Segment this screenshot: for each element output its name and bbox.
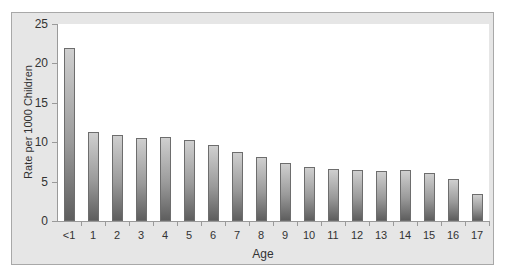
bar-11 <box>328 169 339 221</box>
x-tick-label: 17 <box>465 229 489 241</box>
x-tick <box>225 221 226 226</box>
x-tick <box>249 221 250 226</box>
bar-<1 <box>64 48 75 221</box>
bar-14 <box>400 170 411 221</box>
x-tick <box>297 221 298 226</box>
y-tick <box>52 182 57 183</box>
bar-1 <box>88 132 99 221</box>
bar-2 <box>112 135 123 221</box>
bar-5 <box>184 140 195 221</box>
y-tick <box>52 24 57 25</box>
bar-3 <box>136 138 147 221</box>
bar-17 <box>472 194 483 221</box>
x-tick-label: 8 <box>249 229 273 241</box>
y-axis-label: Rate per 1000 Children <box>22 65 34 179</box>
y-tick <box>52 221 57 222</box>
x-tick-label: <1 <box>57 229 81 241</box>
y-tick <box>52 103 57 104</box>
x-tick-label: 14 <box>393 229 417 241</box>
y-axis-line <box>57 24 58 222</box>
bar-4 <box>160 137 171 221</box>
y-tick-label: 25 <box>18 18 48 30</box>
bar-7 <box>232 152 243 221</box>
x-tick-label: 3 <box>129 229 153 241</box>
x-tick <box>489 221 490 226</box>
x-tick-label: 2 <box>105 229 129 241</box>
bar-6 <box>208 145 219 221</box>
x-tick <box>153 221 154 226</box>
x-tick <box>465 221 466 226</box>
bar-12 <box>352 170 363 221</box>
x-tick-label: 10 <box>297 229 321 241</box>
x-tick-label: 1 <box>81 229 105 241</box>
bar-8 <box>256 157 267 221</box>
x-tick-label: 4 <box>153 229 177 241</box>
x-tick <box>201 221 202 226</box>
bar-16 <box>448 179 459 221</box>
x-tick-label: 16 <box>441 229 465 241</box>
x-tick-label: 9 <box>273 229 297 241</box>
x-tick-label: 13 <box>369 229 393 241</box>
x-tick-label: 6 <box>201 229 225 241</box>
x-tick <box>129 221 130 226</box>
x-tick <box>105 221 106 226</box>
x-tick-label: 12 <box>345 229 369 241</box>
x-tick <box>345 221 346 226</box>
x-tick <box>81 221 82 226</box>
x-tick <box>417 221 418 226</box>
x-tick <box>393 221 394 226</box>
y-tick <box>52 63 57 64</box>
y-tick <box>52 142 57 143</box>
x-tick-label: 7 <box>225 229 249 241</box>
x-tick <box>273 221 274 226</box>
bar-10 <box>304 167 315 221</box>
bar-15 <box>424 173 435 221</box>
y-tick-label: 0 <box>18 215 48 227</box>
x-tick-label: 11 <box>321 229 345 241</box>
x-tick <box>369 221 370 226</box>
x-tick <box>321 221 322 226</box>
x-tick-label: 5 <box>177 229 201 241</box>
x-axis-label: Age <box>252 247 273 261</box>
x-tick-label: 15 <box>417 229 441 241</box>
x-tick <box>441 221 442 226</box>
bar-13 <box>376 171 387 221</box>
x-tick <box>177 221 178 226</box>
bar-9 <box>280 163 291 221</box>
